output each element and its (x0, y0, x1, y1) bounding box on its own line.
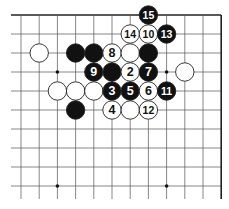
move-number: 12 (143, 104, 155, 116)
black-stone-move-3: 3 (103, 82, 121, 100)
black-stone (66, 101, 84, 119)
white-stone-move-10: 10 (139, 25, 157, 43)
move-number: 15 (143, 9, 155, 21)
black-stone-move-7: 7 (139, 63, 157, 81)
white-stone (66, 82, 84, 100)
move-number: 6 (145, 84, 152, 98)
go-board: 89273561141214101315 (0, 0, 229, 209)
black-stone (103, 63, 121, 81)
star-point (165, 70, 169, 74)
move-number: 8 (109, 46, 116, 60)
move-number: 11 (161, 85, 172, 97)
white-stone-move-14: 14 (121, 25, 139, 43)
move-number: 2 (127, 65, 134, 79)
white-stone (48, 82, 66, 100)
white-stone (30, 44, 48, 62)
black-stone (139, 44, 157, 62)
star-point (165, 184, 169, 188)
move-number: 5 (127, 84, 134, 98)
move-number: 3 (109, 84, 116, 98)
white-stone (121, 44, 139, 62)
star-point (56, 70, 60, 74)
move-number: 14 (124, 28, 136, 40)
black-stone (66, 44, 84, 62)
black-stone-move-13: 13 (157, 25, 175, 43)
black-stone-move-11: 11 (157, 82, 175, 100)
move-number: 10 (143, 28, 155, 40)
star-point (56, 184, 60, 188)
white-stone-move-8: 8 (103, 44, 121, 62)
black-stone-move-5: 5 (121, 82, 139, 100)
black-stone-move-15: 15 (139, 6, 157, 24)
white-stone-move-4: 4 (103, 101, 121, 119)
move-number: 13 (161, 28, 173, 40)
white-stone (85, 82, 103, 100)
white-stone (176, 63, 194, 81)
white-stone-move-6: 6 (139, 82, 157, 100)
move-number: 9 (90, 65, 97, 79)
move-number: 7 (145, 65, 152, 79)
move-number: 4 (109, 103, 116, 117)
white-stone (121, 101, 139, 119)
black-stone (85, 44, 103, 62)
white-stone-move-2: 2 (121, 63, 139, 81)
black-stone-move-9: 9 (85, 63, 103, 81)
white-stone-move-12: 12 (139, 101, 157, 119)
